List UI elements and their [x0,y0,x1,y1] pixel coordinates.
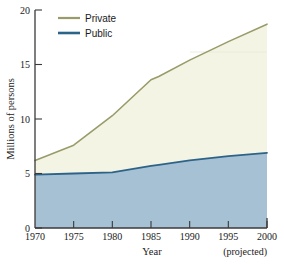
x-tick-label: 1990 [180,231,200,242]
legend-label-public: Public [85,28,112,39]
area-chart-canvas: 05101520 1970197519801985199019952000 Ye… [0,0,284,264]
x-tick-label: 1980 [102,231,122,242]
y-axis-title: Millions of persons [5,78,16,160]
x-tick-label: 2000 [257,231,277,242]
x-tick-label: 1995 [218,231,238,242]
x-tick-label: 1975 [64,231,84,242]
x-axis-title: Year [142,246,162,257]
chart-figure: 05101520 1970197519801985199019952000 Ye… [0,0,284,264]
legend-label-private: Private [85,13,117,24]
x-tick-label: 1970 [25,231,45,242]
x-tick-label: 1985 [141,231,161,242]
y-tick-label: 5 [25,168,30,179]
y-axis-tick-labels: 05101520 [20,5,30,234]
x-axis-tick-labels: 1970197519801985199019952000 [25,231,277,242]
y-tick-label: 15 [20,59,30,70]
projected-note: (projected) [223,246,267,258]
y-tick-label: 20 [20,5,30,16]
y-tick-label: 10 [20,114,30,125]
